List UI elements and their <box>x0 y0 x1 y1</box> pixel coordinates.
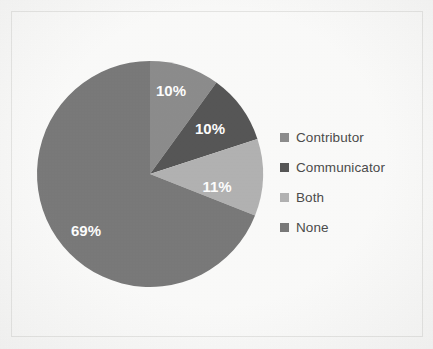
legend-swatch-both <box>280 193 289 202</box>
pie-slice-label-contributor: 10% <box>156 82 186 99</box>
pie-slice-group <box>37 61 263 287</box>
legend-swatch-communicator <box>280 163 289 172</box>
legend-item-none[interactable]: None <box>280 212 385 242</box>
legend-label-both: Both <box>296 190 324 205</box>
pie-slice-label-both: 11% <box>202 178 231 195</box>
legend-label-contributor: Contributor <box>296 130 364 145</box>
legend-label-communicator: Communicator <box>296 160 385 175</box>
chart-screenshot: 10%10%11%69% Contributor Communicator Bo… <box>0 0 433 349</box>
pie-slice-label-communicator: 10% <box>195 120 225 137</box>
legend-item-both[interactable]: Both <box>280 182 385 212</box>
legend-item-communicator[interactable]: Communicator <box>280 152 385 182</box>
legend-swatch-contributor <box>280 133 289 142</box>
legend-swatch-none <box>280 223 289 232</box>
legend-label-none: None <box>296 220 329 235</box>
pie-slice-label-none: 69% <box>71 222 101 239</box>
legend-item-contributor[interactable]: Contributor <box>280 122 385 152</box>
chart-legend: Contributor Communicator Both None <box>280 122 385 242</box>
